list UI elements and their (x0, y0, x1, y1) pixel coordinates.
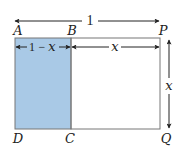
total-width-dimension: 1 (15, 13, 159, 28)
unshaded-width-dimension: x (72, 39, 159, 54)
vertex-c-label: C (65, 131, 75, 146)
unshaded-width-label: x (111, 39, 119, 54)
shaded-width-one: 1 (29, 40, 35, 54)
vertex-p-label: P (158, 23, 168, 38)
vertex-b-label: B (66, 23, 77, 38)
rectangle-diagram: 1 1 − x x x A B P D C Q (0, 0, 179, 154)
total-width-label: 1 (87, 13, 94, 28)
height-dimension: x (165, 40, 173, 128)
height-label: x (165, 78, 173, 93)
vertex-d-label: D (12, 131, 24, 146)
vertex-a-label: A (12, 23, 22, 38)
shaded-width-x: x (48, 39, 56, 54)
shaded-width-minus: − (39, 40, 46, 54)
vertex-q-label: Q (161, 131, 172, 146)
